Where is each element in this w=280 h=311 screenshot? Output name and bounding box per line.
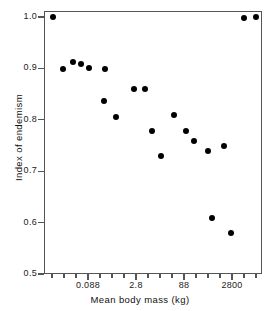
x-tick-mark-minor xyxy=(111,274,112,278)
y-tick-label: 1.0 xyxy=(0,12,37,21)
data-point xyxy=(113,114,119,120)
x-tick-mark-minor xyxy=(51,274,52,278)
x-tick-mark-minor xyxy=(63,274,64,278)
y-axis-label: Index of endemism xyxy=(13,58,24,218)
data-point xyxy=(60,66,66,72)
y-tick-mark xyxy=(38,119,44,120)
data-point xyxy=(241,15,247,21)
x-axis-label: Mean body mass (kg) xyxy=(0,294,280,305)
y-tick-label: 0.5 xyxy=(0,269,37,278)
data-point xyxy=(228,230,234,236)
y-tick-mark xyxy=(38,222,44,223)
data-point xyxy=(78,61,84,67)
data-point xyxy=(183,128,189,134)
data-point xyxy=(70,59,76,65)
x-tick-mark-minor xyxy=(171,274,172,278)
y-tick-mark xyxy=(38,16,44,17)
x-tick-mark-minor xyxy=(99,274,100,278)
x-tick-mark-minor xyxy=(75,274,76,278)
data-point xyxy=(158,153,164,159)
data-point xyxy=(191,138,197,144)
y-tick-mark xyxy=(38,273,44,274)
y-tick-mark xyxy=(38,171,44,172)
data-point xyxy=(50,14,56,20)
data-point xyxy=(209,215,215,221)
data-point xyxy=(253,14,259,20)
data-point xyxy=(142,86,148,92)
data-point xyxy=(86,65,92,71)
x-tick-mark-minor xyxy=(219,274,220,278)
x-tick-mark-minor xyxy=(243,274,244,278)
x-tick-label: 2800 xyxy=(202,281,262,290)
data-point xyxy=(101,98,107,104)
x-tick-mark-minor xyxy=(207,274,208,278)
data-point xyxy=(131,86,137,92)
x-tick-mark-minor xyxy=(159,274,160,278)
scatter-chart: 0.50.60.70.80.91.0 0.0882.8882800 Mean b… xyxy=(0,0,280,311)
y-tick-label: 0.6 xyxy=(0,218,37,227)
data-point xyxy=(205,148,211,154)
x-tick-mark-minor xyxy=(123,274,124,278)
x-tick-mark-minor xyxy=(147,274,148,278)
data-point xyxy=(149,128,155,134)
y-tick-mark xyxy=(38,68,44,69)
x-tick-mark-minor xyxy=(255,274,256,278)
data-point xyxy=(221,143,227,149)
x-tick-mark-minor xyxy=(195,274,196,278)
data-point xyxy=(171,112,177,118)
data-point xyxy=(102,66,108,72)
